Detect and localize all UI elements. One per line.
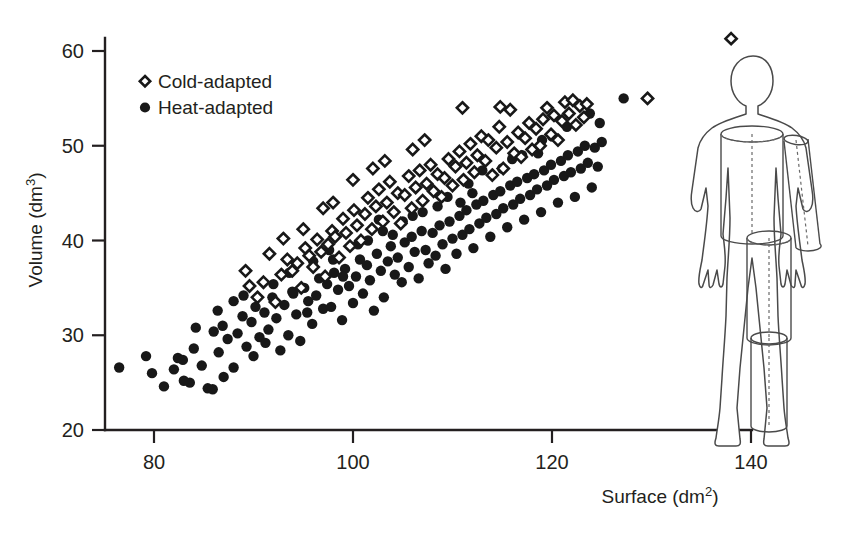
y-tick-label-30: 30 — [62, 324, 84, 346]
data-point-heat-adapted — [283, 330, 293, 340]
data-point-heat-adapted — [593, 161, 603, 171]
data-point-heat-adapted — [307, 319, 317, 329]
data-point-heat-adapted — [468, 243, 478, 253]
data-point-heat-adapted — [141, 351, 151, 361]
data-point-heat-adapted — [404, 262, 414, 272]
y-tick-label-50: 50 — [62, 135, 84, 157]
data-point-heat-adapted — [546, 160, 556, 170]
data-point-heat-adapted — [263, 324, 273, 334]
data-point-heat-adapted — [420, 245, 430, 255]
y-tick-label-40: 40 — [62, 230, 84, 252]
data-point-heat-adapted — [379, 292, 389, 302]
data-point-heat-adapted — [179, 376, 189, 386]
data-point-heat-adapted — [268, 279, 278, 289]
data-point-heat-adapted — [217, 321, 227, 331]
data-point-cold-adapted — [491, 142, 502, 153]
data-point-heat-adapted — [372, 249, 382, 259]
data-point-heat-adapted — [536, 207, 546, 217]
data-point-cold-adapted — [351, 220, 362, 231]
x-tick-label-100: 100 — [336, 451, 369, 473]
data-point-heat-adapted — [529, 169, 539, 179]
data-point-heat-adapted — [388, 230, 398, 240]
data-point-cold-adapted — [384, 176, 395, 187]
data-point-heat-adapted — [515, 194, 525, 204]
data-point-cold-adapted — [457, 102, 468, 113]
data-point-heat-adapted — [553, 197, 563, 207]
data-point-cold-adapted — [494, 121, 505, 132]
data-point-heat-adapted — [386, 241, 396, 251]
svg-text:Surface (dm2): Surface (dm2) — [601, 484, 718, 507]
legend-label-heat-adapted: Heat-adapted — [158, 97, 273, 118]
data-point-heat-adapted — [337, 315, 347, 325]
data-point-heat-adapted — [271, 313, 281, 323]
data-point-heat-adapted — [362, 260, 372, 270]
data-point-heat-adapted — [444, 216, 454, 226]
data-point-heat-adapted — [434, 220, 444, 230]
data-point-heat-adapted — [455, 197, 465, 207]
open-diamond-icon — [140, 76, 150, 86]
data-point-cold-adapted — [465, 138, 476, 149]
data-point-heat-adapted — [260, 338, 270, 348]
data-point-heat-adapted — [570, 192, 580, 202]
data-point-heat-adapted — [502, 222, 512, 232]
data-point-heat-adapted — [583, 158, 593, 168]
data-point-heat-adapted — [222, 334, 232, 344]
data-point-cold-adapted — [447, 180, 458, 191]
data-point-heat-adapted — [393, 252, 403, 262]
data-point-heat-adapted — [519, 214, 529, 224]
data-point-heat-adapted — [213, 347, 223, 357]
data-point-heat-adapted — [238, 290, 248, 300]
data-point-heat-adapted — [464, 224, 474, 234]
data-point-heat-adapted — [302, 307, 312, 317]
data-point-heat-adapted — [580, 141, 590, 151]
data-point-cold-adapted — [502, 136, 513, 147]
x-axis-title-base: Surface (dm — [601, 486, 704, 507]
data-point-cold-adapted — [419, 134, 430, 145]
data-point-heat-adapted — [237, 311, 247, 321]
series-cold-adapted-points — [240, 33, 737, 308]
data-point-cold-adapted — [403, 170, 414, 181]
data-point-heat-adapted — [228, 362, 238, 372]
scatter-plot-figure: 2030405060 80100120140 Volume (dm3) Surf… — [0, 0, 864, 542]
data-point-heat-adapted — [311, 290, 321, 300]
data-point-heat-adapted — [549, 175, 559, 185]
data-point-cold-adapted — [570, 119, 581, 130]
legend-item-cold-adapted: Cold-adapted — [140, 71, 272, 92]
data-point-heat-adapted — [358, 288, 368, 298]
human-body-cylinder-model — [691, 56, 821, 446]
data-point-heat-adapted — [566, 167, 576, 177]
data-point-heat-adapted — [595, 118, 605, 128]
data-point-heat-adapted — [481, 213, 491, 223]
data-point-heat-adapted — [178, 355, 188, 365]
data-point-heat-adapted — [409, 247, 419, 257]
data-point-cold-adapted — [347, 174, 358, 185]
data-point-cold-adapted — [278, 233, 289, 244]
data-point-cold-adapted — [318, 203, 329, 214]
data-point-heat-adapted — [587, 182, 597, 192]
data-point-heat-adapted — [212, 305, 222, 315]
data-point-heat-adapted — [447, 233, 457, 243]
data-point-heat-adapted — [295, 336, 305, 346]
data-point-cold-adapted — [328, 197, 339, 208]
legend-label-cold-adapted: Cold-adapted — [158, 71, 272, 92]
y-axis-title: Volume (dm3) — [23, 173, 46, 288]
data-point-heat-adapted — [159, 381, 169, 391]
data-point-heat-adapted — [191, 322, 201, 332]
data-point-heat-adapted — [383, 256, 393, 266]
data-point-heat-adapted — [189, 343, 199, 353]
data-point-cold-adapted — [367, 163, 378, 174]
data-point-cold-adapted — [417, 195, 428, 206]
data-point-heat-adapted — [440, 264, 450, 274]
data-point-heat-adapted — [407, 232, 417, 242]
data-point-heat-adapted — [241, 341, 251, 351]
x-axis-ticks: 80100120140 — [143, 430, 768, 473]
chart-legend: Cold-adapted Heat-adapted — [140, 71, 273, 118]
data-point-cold-adapted — [244, 280, 255, 291]
filled-circle-icon — [140, 102, 150, 112]
data-point-heat-adapted — [430, 250, 440, 260]
x-tick-label-120: 120 — [535, 451, 568, 473]
chart-svg: 2030405060 80100120140 Volume (dm3) Surf… — [0, 0, 864, 542]
y-tick-label-60: 60 — [62, 40, 84, 62]
x-axis-title: Surface (dm2) — [601, 484, 718, 507]
data-point-cold-adapted — [298, 224, 309, 235]
